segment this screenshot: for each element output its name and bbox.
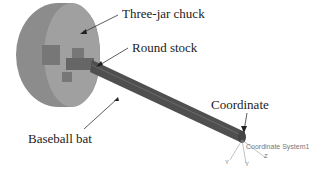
round-stock — [66, 58, 94, 70]
label-round-stock: Round stock — [132, 40, 197, 56]
diagram-canvas: Three-jar chuck Round stock Baseball bat… — [0, 0, 325, 183]
label-coordinate-system: Coordinate System1 — [246, 143, 309, 150]
label-coordinate: Coordinate — [211, 97, 269, 113]
axis-z-label: Y — [245, 161, 249, 167]
model-drawing — [0, 0, 325, 183]
label-baseball-bat: Baseball bat — [28, 131, 92, 147]
axis-x-label: Z — [264, 153, 268, 159]
label-chuck: Three-jar chuck — [122, 6, 205, 22]
jaw — [42, 45, 60, 65]
axis-y-label: Y — [225, 159, 229, 165]
